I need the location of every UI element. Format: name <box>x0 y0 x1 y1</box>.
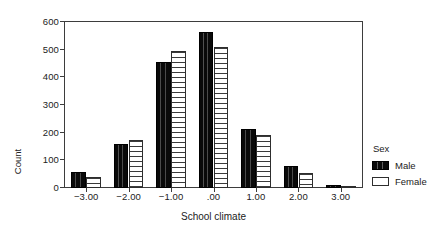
y-axis-tick-label: 600 <box>43 16 59 27</box>
x-axis-tick-label: 3.00 <box>331 191 350 202</box>
y-axis-tick-mark <box>60 104 64 105</box>
bar-group <box>150 22 192 188</box>
bar-male <box>114 144 129 188</box>
legend-item-female[interactable]: Female <box>372 176 440 187</box>
y-axis-tick-label: 500 <box>43 43 59 54</box>
bar-group <box>277 22 319 188</box>
y-axis-tick-mark <box>60 159 64 160</box>
y-axis-title: Count <box>12 132 23 192</box>
y-axis-tick-label: 100 <box>43 154 59 165</box>
y-axis-tick-label: 0 <box>54 182 59 193</box>
legend-item-male[interactable]: Male <box>372 160 440 171</box>
bar-female <box>299 173 314 188</box>
bar-female <box>341 186 356 188</box>
x-axis-title: School climate <box>64 211 363 222</box>
bar-group <box>107 22 149 188</box>
bar-male <box>241 129 256 188</box>
x-axis-tick-label: −3.00 <box>74 191 99 202</box>
bar-group <box>235 22 277 188</box>
legend-swatch-female-icon <box>372 177 389 186</box>
x-axis-tick-label: −1.00 <box>159 191 184 202</box>
bar-female <box>129 140 144 188</box>
bar-female <box>256 135 271 188</box>
x-axis-tick-label: −2.00 <box>116 191 141 202</box>
bar-female <box>86 177 101 188</box>
x-axis-tick-label: 1.00 <box>246 191 265 202</box>
y-axis: 0100200300400500600 <box>0 0 59 242</box>
bar-male <box>156 62 171 188</box>
x-axis-tick-label: 2.00 <box>289 191 308 202</box>
y-axis-tick-mark <box>60 132 64 133</box>
y-axis-tick-label: 300 <box>43 99 59 110</box>
bar-group <box>192 22 234 188</box>
legend: Sex Male Female <box>372 143 440 192</box>
bar-male <box>326 185 341 188</box>
bar-chart: 0100200300400500600 Count School climate… <box>0 0 440 242</box>
y-axis-tick-mark <box>60 76 64 77</box>
bar-male <box>284 166 299 188</box>
bar-male <box>199 32 214 188</box>
y-axis-tick-mark <box>60 21 64 22</box>
bar-female <box>171 51 186 189</box>
y-axis-tick-mark <box>60 49 64 50</box>
y-axis-tick-mark <box>60 187 64 188</box>
bar-male <box>71 172 86 188</box>
legend-title: Sex <box>373 143 440 154</box>
legend-label-male: Male <box>395 160 416 171</box>
bar-female <box>214 47 229 188</box>
y-axis-tick-label: 400 <box>43 71 59 82</box>
bar-group <box>65 22 107 188</box>
legend-label-female: Female <box>395 176 427 187</box>
legend-swatch-male-icon <box>372 161 389 170</box>
bar-group <box>320 22 362 188</box>
x-axis-tick-label: .00 <box>207 191 221 202</box>
bars-layer <box>65 22 362 188</box>
y-axis-tick-label: 200 <box>43 126 59 137</box>
